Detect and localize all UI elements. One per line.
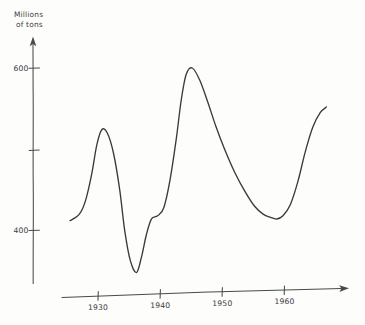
x-tick-label-1950-final: 1950 [212, 299, 232, 308]
y-axis-title-line1-final: Millions [14, 10, 43, 19]
chart-canvas: 600 400 Millions of tons 1930 1940 1950 … [0, 0, 365, 325]
chart-figure: 600 400 Millions of tons 1930 1940 1950 … [0, 0, 365, 325]
curve-repaint-mask [0, 0, 365, 325]
x-tick-label-1930-final: 1930 [88, 303, 108, 312]
x-tick-label-1940-final: 1940 [150, 301, 170, 310]
x-tick-label-1960-final: 1960 [274, 297, 294, 306]
y-tick-label-400-final: 400 [14, 226, 29, 235]
y-tick-label-600-final: 600 [14, 64, 29, 73]
data-series-visible-group: 600 400 Millions of tons 1930 1940 1950 … [0, 0, 365, 325]
y-axis-title-line2-final: of tons [16, 20, 43, 29]
